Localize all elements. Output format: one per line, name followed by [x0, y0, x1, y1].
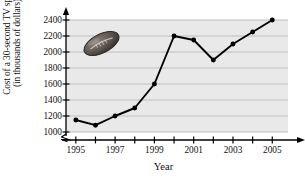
x-axis-tick-label: 2005 — [263, 145, 282, 155]
x-axis-tick-label: 2003 — [224, 145, 243, 155]
x-axis-tick-label: 2001 — [184, 145, 203, 155]
x-axis-tick-labels: 199519971999200120032005 — [0, 0, 305, 182]
x-axis-tick-label: 1995 — [67, 145, 86, 155]
x-axis-tick-label: 1997 — [106, 145, 125, 155]
x-axis-title: Year — [0, 161, 305, 172]
x-axis-tick-label: 1999 — [145, 145, 164, 155]
chart-figure: Cost of a 30-second TV spot (in thousand… — [0, 0, 305, 182]
